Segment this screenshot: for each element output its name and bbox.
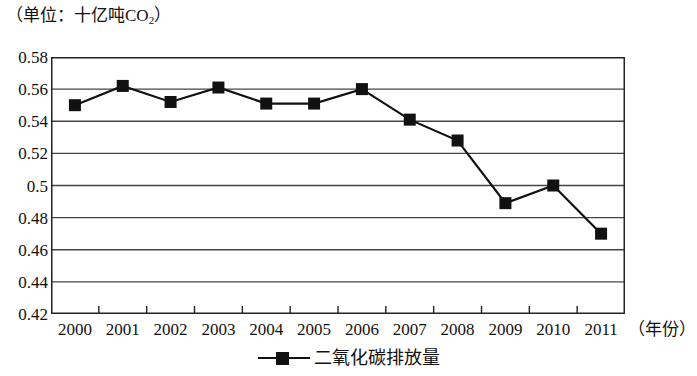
data-point-marker <box>595 228 607 240</box>
y-tick-label: 0.46 <box>2 242 48 259</box>
data-point-marker <box>499 197 511 209</box>
data-point-marker <box>212 82 224 94</box>
unit-title-subscript: 2 <box>149 14 155 26</box>
data-point-marker <box>69 99 81 111</box>
data-point-marker <box>404 114 416 126</box>
data-point-marker <box>165 96 177 108</box>
legend-label: 二氧化碳排放量 <box>310 348 440 368</box>
unit-title-suffix: ） <box>154 6 171 25</box>
y-axis-tick-labels: 0.580.560.540.520.50.480.460.440.42 <box>0 0 48 376</box>
legend-marker-square-icon <box>258 351 310 365</box>
legend-item-co2: 二氧化碳排放量 <box>258 348 440 368</box>
y-tick-label: 0.56 <box>2 81 48 98</box>
plot-svg <box>51 57 625 314</box>
data-point-marker <box>356 83 368 95</box>
chart-container: （单位：十亿吨CO2） 0.580.560.540.520.50.480.460… <box>0 0 697 376</box>
y-tick-label: 0.48 <box>2 210 48 227</box>
y-tick-label: 0.44 <box>2 274 48 291</box>
data-point-marker <box>117 80 129 92</box>
data-point-marker <box>452 135 464 147</box>
y-tick-label: 0.58 <box>2 49 48 66</box>
plot-area <box>51 57 625 314</box>
x-axis-title: （年份） <box>628 320 696 340</box>
y-tick-label: 0.54 <box>2 113 48 130</box>
y-gridlines <box>51 89 625 282</box>
data-point-marker <box>308 98 320 110</box>
series-markers <box>69 80 607 240</box>
y-tick-label: 0.52 <box>2 145 48 162</box>
x-axis-tick-labels: 2000200120022003200420052006200720082009… <box>51 320 625 346</box>
series-line-co2 <box>75 86 601 234</box>
y-tick-label: 0.42 <box>2 306 48 323</box>
chart-legend: 二氧化碳排放量 <box>0 348 697 368</box>
data-point-marker <box>260 98 272 110</box>
data-point-marker <box>547 180 559 192</box>
x-tick-label: 2011 <box>571 320 631 340</box>
y-tick-label: 0.5 <box>2 178 48 195</box>
